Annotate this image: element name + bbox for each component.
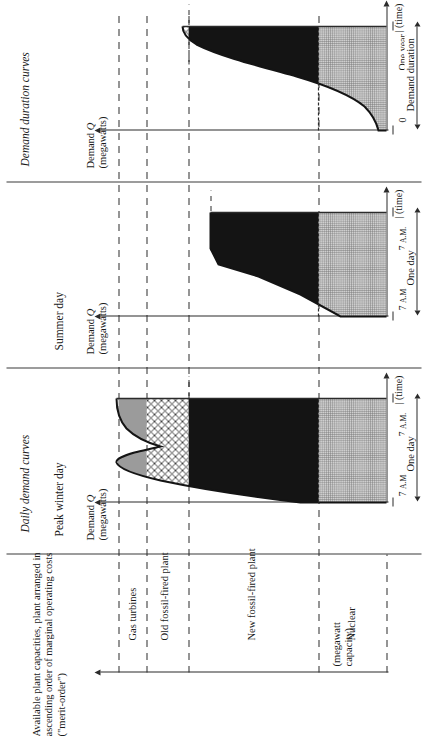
summer-day-ticklabel-left: 7 A.M.	[396, 286, 407, 310]
demand-duration-area-chart	[0, 0, 427, 182]
capacity-label-gas-turbines: Gas turbines	[126, 587, 137, 640]
bracket-arrow-left-icon	[414, 310, 420, 315]
capacity-axis-arrow-icon	[94, 669, 100, 675]
summer-day-tick-left	[392, 311, 393, 320]
bracket-arrow-left-icon	[414, 124, 420, 129]
capacity-label-new-fossil: New fossil-fired plant	[245, 548, 256, 640]
summer-day-area-chart	[0, 182, 427, 368]
bracket-arrow-right-icon	[414, 393, 420, 398]
summer-day-span-bracket	[416, 212, 417, 310]
demand-duration-tick-right	[392, 21, 393, 30]
demand-duration-tick-left	[392, 125, 393, 134]
peak-winter-day-tick-right	[392, 393, 393, 402]
meridiem-text: A.M.	[398, 286, 407, 302]
panel-summer-day: Summer day Demand Q(megawatts) | (time)	[0, 182, 427, 368]
bracket-arrow-right-icon	[414, 207, 420, 212]
bracket-arrow-left-icon	[414, 496, 420, 501]
peak-winter-day-span-bracket	[416, 398, 417, 496]
meridiem-text: A.M.	[398, 226, 407, 242]
capacity-axis-label-line1: (megawatt	[330, 622, 341, 666]
meridiem-text: A.M.	[398, 472, 407, 488]
peak-winter-day-area-chart	[0, 368, 427, 554]
summer-day-span-label: One day	[404, 247, 415, 288]
capacity-label-nuclear: Nuclear	[345, 607, 356, 640]
capacity-label-old-fossil: Old fossil-fired plant	[158, 552, 169, 640]
meridiem-text: A.M.	[398, 412, 407, 428]
capacity-axis-line	[100, 671, 388, 672]
peak-winter-day-ticklabel-left: 7 A.M.	[396, 472, 407, 496]
demand-duration-ticklabel-left: 0	[396, 117, 407, 122]
peak-winter-day-tick-left	[392, 497, 393, 506]
demand-duration-span-label: Demand duration	[404, 35, 415, 114]
demand-duration-span-bracket	[416, 26, 417, 124]
bracket-arrow-right-icon	[414, 21, 420, 26]
panel-demand-duration: Demand duration curves Demand Q(megawatt…	[0, 0, 427, 182]
peak-winter-day-span-label: One day	[404, 433, 415, 474]
capacity-column-heading: Available plant capacities, plant arrang…	[30, 540, 67, 736]
panel-capacity-column: Available plant capacities, plant arrang…	[0, 554, 427, 700]
panel-peak-winter-day: Daily demand curves Peak winter day Dema…	[0, 368, 427, 554]
summer-day-tick-right	[392, 207, 393, 216]
